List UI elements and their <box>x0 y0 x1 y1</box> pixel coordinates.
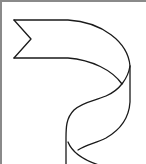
image-frame <box>0 0 146 164</box>
ribbon-twist-back <box>66 66 130 164</box>
ribbon-lower-sweep <box>68 142 102 164</box>
ribbon-banner-icon <box>2 2 146 164</box>
ribbon-notch <box>14 20 31 58</box>
ribbon-bottom-edge <box>14 58 122 84</box>
